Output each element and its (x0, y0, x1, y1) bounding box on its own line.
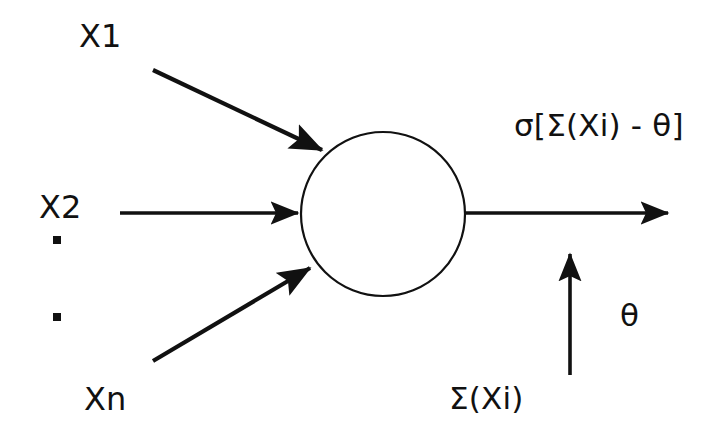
neuron-body-circle (301, 132, 465, 296)
input-arrow-xn (153, 268, 310, 361)
summation-label: Σ(Xi) (449, 383, 524, 414)
ellipsis-dot-1 (53, 236, 61, 244)
input-arrow-x1 (153, 70, 322, 150)
input-label-xn: Xn (84, 383, 127, 415)
ellipsis-dot-2 (53, 313, 61, 321)
output-label: σ[Σ(Xi) - θ] (514, 110, 684, 141)
threshold-label: θ (620, 300, 639, 331)
input-label-x1: X1 (79, 20, 122, 52)
diagram-canvas: X1 X2 Xn σ[Σ(Xi) - θ] Σ(Xi) θ (0, 0, 726, 446)
input-label-x2: X2 (39, 191, 82, 223)
